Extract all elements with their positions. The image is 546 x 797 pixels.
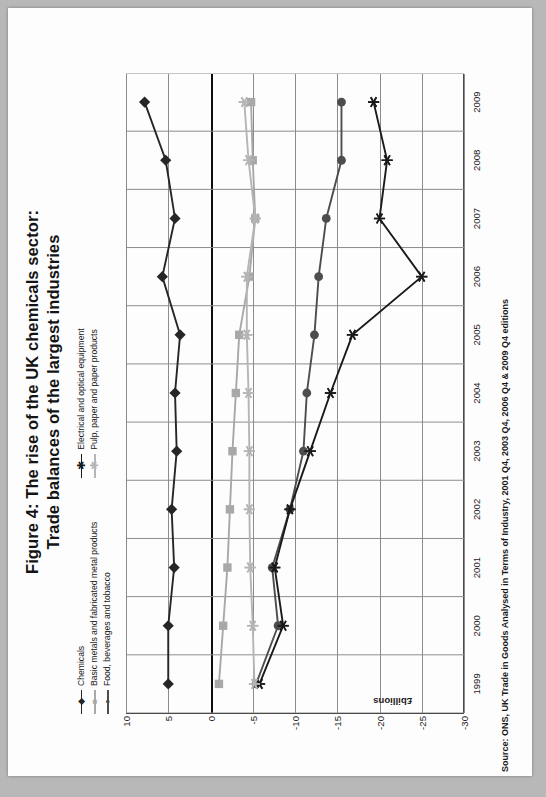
legend-item-chemicals[interactable]: ◆ Chemicals <box>76 522 87 714</box>
legend-label: Chemicals <box>76 646 87 686</box>
y-tick-label: 5 <box>163 716 174 721</box>
data-point-marker <box>163 620 174 631</box>
y-tick-label: 0 <box>205 716 216 721</box>
x-tick-label: 1999 <box>471 673 482 694</box>
title-line-2: Trade balances of the largest industries <box>43 8 64 776</box>
legend-swatch-circle-icon: ● <box>103 690 112 714</box>
page-canvas: Figure 4: The rise of the UK chemicals s… <box>0 0 546 797</box>
data-point-marker <box>322 214 331 223</box>
y-tick-label: -5 <box>247 716 258 725</box>
data-point-marker <box>337 98 346 107</box>
legend-item-basic-metals[interactable]: ■ Basic metals and fabricated metal prod… <box>89 522 100 714</box>
x-tick-label: 2000 <box>471 615 482 636</box>
data-point-marker <box>310 330 319 339</box>
legend-column-2: ✱ Electrical and optical equipment ✱ Pul… <box>76 328 113 477</box>
chart-plot-area: 1050-5-10-15-20-25-30 199920002001200220… <box>126 74 464 714</box>
data-point-marker <box>166 504 177 515</box>
figure: Figure 4: The rise of the UK chemicals s… <box>8 8 532 776</box>
data-point-marker <box>228 447 236 455</box>
data-point-marker <box>226 505 234 513</box>
legend-item-electrical-optical[interactable]: ✱ Electrical and optical equipment <box>76 328 87 477</box>
y-tick-label: 10 <box>121 716 132 727</box>
data-point-marker <box>169 562 180 573</box>
chart-series-svg <box>126 73 464 713</box>
y-axis-title: £billions <box>373 696 412 707</box>
title-line-1: Figure 4: The rise of the UK chemicals s… <box>22 8 43 776</box>
legend-item-pulp-paper[interactable]: ✱ Pulp, paper and paper products <box>89 328 100 477</box>
x-tick-label: 2001 <box>471 557 482 578</box>
y-tick-label: -25 <box>416 716 427 730</box>
data-point-marker <box>232 389 240 397</box>
data-point-marker <box>215 680 223 688</box>
data-point-marker <box>325 388 336 398</box>
x-tick-label: 2005 <box>471 324 482 345</box>
y-tick-label: -30 <box>459 716 470 730</box>
x-tick-label: 2009 <box>471 91 482 112</box>
series-electrical-and-optical-equipment <box>254 97 427 689</box>
x-tick-label: 2006 <box>471 266 482 287</box>
x-tick-label: 2002 <box>471 499 482 520</box>
legend-label: Pulp, paper and paper products <box>89 329 100 449</box>
data-point-marker <box>157 271 168 282</box>
legend-item-food-beverages[interactable]: ● Food, beverages and tobacco <box>102 522 113 714</box>
y-tick-label: -15 <box>332 716 343 730</box>
y-tick-label: -10 <box>290 716 301 730</box>
series-pulp-paper-and-paper-products <box>239 97 261 689</box>
data-point-marker <box>139 96 150 107</box>
data-point-marker <box>169 387 180 398</box>
x-tick-label: 2004 <box>471 382 482 403</box>
series-chemicals <box>139 96 186 689</box>
page-title: Figure 4: The rise of the UK chemicals s… <box>22 8 64 776</box>
data-point-marker <box>169 213 180 224</box>
data-point-marker <box>302 389 311 398</box>
data-point-marker <box>219 622 227 630</box>
legend-label: Food, beverages and tobacco <box>102 572 113 686</box>
chart-legend: ◆ Chemicals ■ Basic metals and fabricate… <box>76 54 113 714</box>
data-point-marker <box>337 156 346 165</box>
data-point-marker <box>163 678 174 689</box>
legend-swatch-plus-icon: ✱ <box>90 454 99 478</box>
legend-swatch-square-icon: ■ <box>90 690 99 714</box>
data-point-marker <box>305 446 316 456</box>
x-tick-label: 2003 <box>471 441 482 462</box>
legend-column-1: ◆ Chemicals ■ Basic metals and fabricate… <box>76 522 113 714</box>
gridline <box>464 74 465 713</box>
legend-label: Electrical and optical equipment <box>76 328 87 449</box>
data-point-marker <box>160 155 171 166</box>
legend-label: Basic metals and fabricated metal produc… <box>89 522 100 686</box>
data-point-marker <box>174 329 185 340</box>
legend-swatch-star-icon: ✱ <box>77 454 86 478</box>
x-tick-label: 2008 <box>471 150 482 171</box>
data-point-marker <box>314 272 323 281</box>
y-tick-label: -20 <box>374 716 385 730</box>
data-point-marker <box>171 446 182 457</box>
source-note: Source: ONS, UK Trade in Goods Analysed … <box>500 299 510 772</box>
x-tick-label: 2007 <box>471 208 482 229</box>
data-point-marker <box>223 563 231 571</box>
rotated-figure-wrapper: Figure 4: The rise of the UK chemicals s… <box>8 8 532 776</box>
legend-swatch-diamond-icon: ◆ <box>77 690 86 714</box>
